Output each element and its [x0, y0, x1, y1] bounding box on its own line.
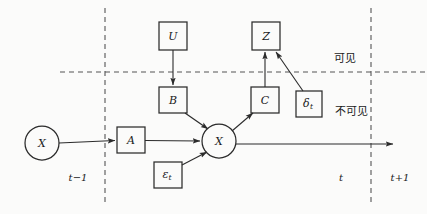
node-x-prev — [25, 126, 59, 160]
visible-region-label: 可见 — [334, 49, 356, 65]
node-eps-box — [154, 162, 182, 188]
node-x-curr — [202, 124, 236, 158]
time-label-t-plus-1: t+1 — [391, 172, 410, 183]
node-b-box — [159, 87, 187, 113]
invisible-region-label: 不可见 — [335, 102, 368, 118]
diagram-canvas: X A B U εt X C Z δt 可见 不可见 t−1 t t+1 — [0, 0, 427, 214]
edge-eps-to-x-curr — [182, 152, 207, 165]
edge-b-to-x-curr — [185, 113, 208, 129]
time-label-t: t — [339, 172, 343, 183]
edge-x-prev-to-a — [59, 141, 115, 144]
node-delta-box — [296, 91, 322, 117]
node-c-box — [251, 87, 279, 113]
node-z-box — [252, 22, 280, 50]
edge-x-curr-to-c — [232, 113, 253, 131]
edge-a-to-x-curr — [145, 141, 200, 142]
node-u-box — [159, 22, 187, 50]
node-a-box — [117, 127, 145, 153]
time-label-t-minus-1: t−1 — [69, 172, 88, 183]
